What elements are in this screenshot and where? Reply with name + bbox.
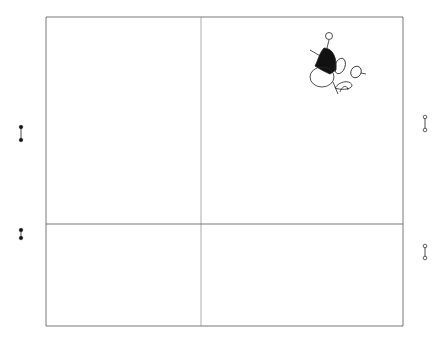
hormone-chart xyxy=(0,0,447,363)
plot-frame xyxy=(46,17,403,326)
lh-legend-icon xyxy=(19,125,23,142)
progesterone-legend-icon xyxy=(19,228,23,240)
estrogen-legend-icon xyxy=(423,244,427,260)
brain-lesion-diagram-icon xyxy=(310,33,366,95)
fsh-legend-icon xyxy=(423,115,427,132)
